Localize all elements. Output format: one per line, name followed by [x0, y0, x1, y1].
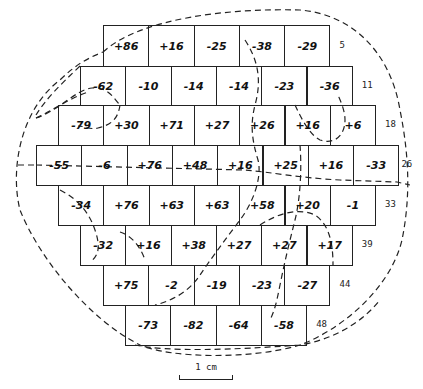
grid-cell: -19: [194, 265, 240, 306]
grid-cell: +16: [308, 145, 354, 186]
row-count-label: 26: [401, 159, 412, 169]
row-count-label: 48: [316, 319, 327, 329]
grid-cell: -34: [58, 185, 104, 226]
scale-tick-right: [232, 375, 233, 380]
grid-cell: -10: [125, 66, 171, 106]
grid-cell: -27: [284, 265, 330, 306]
grid-cell: -73: [125, 305, 171, 346]
grid-cell: +76: [103, 185, 149, 226]
grid-cell: +27: [261, 225, 307, 266]
grid-cell: -82: [170, 305, 216, 346]
grid-cell: +16: [148, 25, 194, 67]
grid-cell: +30: [103, 105, 149, 146]
grid-cell: -55: [36, 145, 82, 186]
grid-cell: +71: [149, 105, 195, 146]
grid-cell: -1: [330, 185, 376, 226]
grid-cell: +17: [307, 225, 353, 266]
row-count-label: 11: [362, 80, 373, 90]
grid-cell: -38: [239, 25, 285, 67]
grid-cell: +16: [217, 145, 263, 186]
grid-cell: -33: [353, 145, 399, 186]
grid-cell: +6: [330, 105, 376, 146]
grid-cell: +86: [103, 25, 149, 67]
scale-bar-line: [179, 379, 233, 380]
row-count-label: 39: [362, 239, 373, 249]
grid-cell: +75: [103, 265, 149, 306]
grid-cell: -23: [261, 66, 307, 106]
grid-cell: +16: [125, 225, 171, 266]
grid-cell: -58: [261, 305, 307, 346]
grid-cell: -6: [81, 145, 127, 186]
scale-bar: 1 cm: [179, 370, 233, 380]
grid-cell: -64: [216, 305, 262, 346]
grid-cell: -79: [58, 105, 104, 146]
grid-cell: +27: [216, 225, 262, 266]
grid-cell: +26: [239, 105, 285, 146]
grid-cell: +27: [194, 105, 240, 146]
row-count-label: 5: [340, 40, 345, 50]
grid-cell: +20: [285, 185, 331, 226]
grid-cell: -23: [239, 265, 285, 306]
grid-cell: +58: [239, 185, 285, 226]
row-count-label: 33: [385, 199, 396, 209]
grid-cell: -29: [284, 25, 330, 67]
grid-cell: -14: [216, 66, 262, 106]
grid-cell: -25: [194, 25, 240, 67]
grid-cell: +76: [127, 145, 173, 186]
grid-cell: -14: [171, 66, 217, 106]
grid-cell: +16: [285, 105, 331, 146]
grid-cell: +48: [172, 145, 218, 186]
scale-tick-left: [179, 375, 180, 380]
grid-cell: -32: [80, 225, 126, 266]
grid-cell: +25: [263, 145, 309, 186]
row-count-label: 18: [385, 119, 396, 129]
grid-cell: +63: [149, 185, 195, 226]
grid-map-diagram: +86+16-25-38-295-62-10-14-14-23-3611-79+…: [0, 0, 423, 389]
grid-cell: -36: [307, 66, 353, 106]
grid-cell: -62: [80, 66, 126, 106]
grid-cell: +38: [171, 225, 217, 266]
row-count-label: 44: [340, 279, 351, 289]
scale-label: 1 cm: [179, 362, 233, 372]
grid-cell: +63: [194, 185, 240, 226]
grid-cell: -2: [148, 265, 194, 306]
